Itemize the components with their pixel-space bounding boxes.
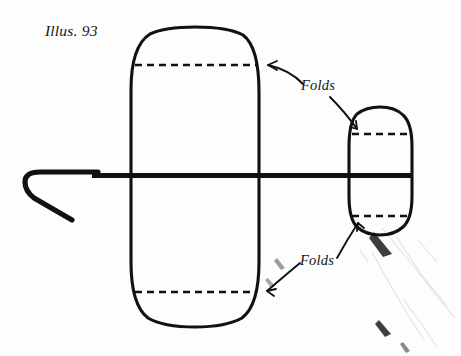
page-title: Illus. 93 [45,22,98,40]
figure-canvas [0,0,461,356]
horizontal-rod-icon [92,174,412,176]
folds-label-lower: Folds [300,252,334,269]
folds-label-upper: Folds [301,77,335,94]
hook-icon [25,172,98,220]
leader-arrow-upper-to-large-loop [268,61,303,84]
illustration-page: Illus. 93 Folds Folds [0,0,461,356]
paper-smudge-group [360,228,455,346]
fold-dashed-line-group [135,65,410,292]
leader-arrow-upper-to-small-loop [330,97,357,129]
paper-smudge-dark-group [265,232,410,353]
